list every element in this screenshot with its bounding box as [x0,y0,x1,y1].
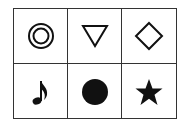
cell-down-triangle [68,9,122,64]
cell-filled-circle [68,64,122,119]
cell-double-circle [14,9,68,64]
symbol-grid [13,8,177,119]
cell-eighth-note [14,64,68,119]
eighth-note-icon [31,78,51,106]
filled-star-icon [134,78,164,106]
diamond-outline-icon [134,21,164,51]
down-triangle-outline-icon [81,23,109,49]
cell-filled-star [122,64,176,119]
filled-circle-icon [81,78,109,106]
double-circle-icon [27,22,55,50]
cell-diamond [122,9,176,64]
